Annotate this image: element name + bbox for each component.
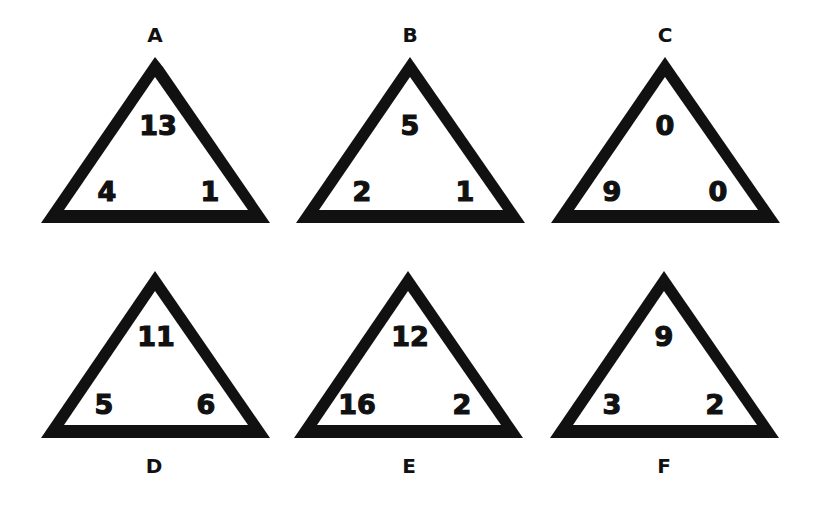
triangle-top-number: 0 (635, 112, 695, 140)
triangle-label: A (135, 25, 175, 45)
triangle-c: C 0 9 0 (545, 20, 785, 250)
triangle-top-number: 5 (380, 112, 440, 140)
triangle-puzzle: A 13 4 1 B 5 2 1 C 0 9 0 11 5 6 D (0, 0, 826, 515)
triangle-e: 12 16 2 E (290, 234, 530, 464)
triangle-label: D (134, 456, 174, 476)
triangle-right-number: 1 (180, 178, 240, 206)
triangle-left-number: 5 (74, 391, 134, 419)
triangle-left-number: 3 (582, 391, 642, 419)
triangle-left-number: 4 (77, 178, 137, 206)
triangle-right-number: 1 (435, 178, 495, 206)
triangle-left-number: 9 (582, 178, 642, 206)
triangle-label: E (389, 456, 429, 476)
triangle-d: 11 5 6 D (35, 234, 275, 464)
triangle-right-number: 6 (176, 391, 236, 419)
triangle-right-number: 2 (685, 391, 745, 419)
triangle-top-number: 9 (634, 323, 694, 351)
triangle-right-number: 0 (688, 178, 748, 206)
triangle-top-number: 13 (128, 112, 188, 140)
triangle-label: B (390, 25, 430, 45)
triangle-b: B 5 2 1 (290, 20, 530, 250)
triangle-label: F (644, 456, 684, 476)
triangle-right-number: 2 (432, 391, 492, 419)
triangle-a: A 13 4 1 (35, 20, 275, 250)
triangle-left-number: 16 (327, 391, 387, 419)
triangle-top-number: 12 (380, 323, 440, 351)
triangle-f: 9 3 2 F (545, 234, 785, 464)
triangle-label: C (645, 25, 685, 45)
triangle-top-number: 11 (126, 323, 186, 351)
triangle-left-number: 2 (332, 178, 392, 206)
